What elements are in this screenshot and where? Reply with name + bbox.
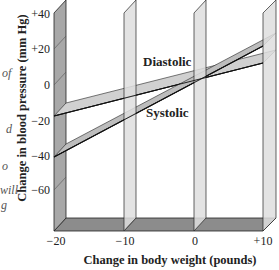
margin-fragment: will (0, 183, 19, 197)
x-tick-0: 0 (192, 234, 198, 248)
y-tick-minus-20: −20 (31, 114, 50, 128)
x-tick-minus-20: −20 (47, 234, 66, 248)
margin-fragment: of (2, 66, 13, 80)
y-axis-label: Change in blood pressure (mm Hg) (15, 14, 29, 201)
systolic-label: Systolic (146, 105, 189, 120)
y-tick-minus-40: −40 (31, 149, 50, 163)
slab-x-plus-10 (263, 0, 276, 231)
blood-pressure-chart: +40 +20 0 −20 −40 −60 −20 −10 0 +10 Chan… (0, 0, 279, 270)
y-tick-minus-60: −60 (31, 183, 50, 197)
ribbon-systolic (54, 33, 276, 157)
y-tick-20: +20 (31, 42, 50, 56)
x-axis-label: Change in body weight (pounds) (84, 253, 257, 267)
chart-floor (54, 218, 276, 231)
margin-fragment: d (6, 122, 13, 136)
x-tick-minus-10: −10 (116, 234, 135, 248)
margin-fragment: g (1, 198, 7, 212)
slab-x-0 (194, 0, 206, 231)
x-axis-ticks: −20 −10 0 +10 (47, 234, 273, 248)
diastolic-label: Diastolic (143, 54, 192, 69)
y-tick-0: 0 (44, 78, 50, 92)
y-axis-ticks: +40 +20 0 −20 −40 −60 (31, 7, 50, 197)
margin-fragment: o (2, 159, 8, 173)
slab-x-minus-10 (124, 0, 136, 231)
x-tick-plus-10: +10 (254, 234, 273, 248)
y-tick-40: +40 (31, 7, 50, 21)
